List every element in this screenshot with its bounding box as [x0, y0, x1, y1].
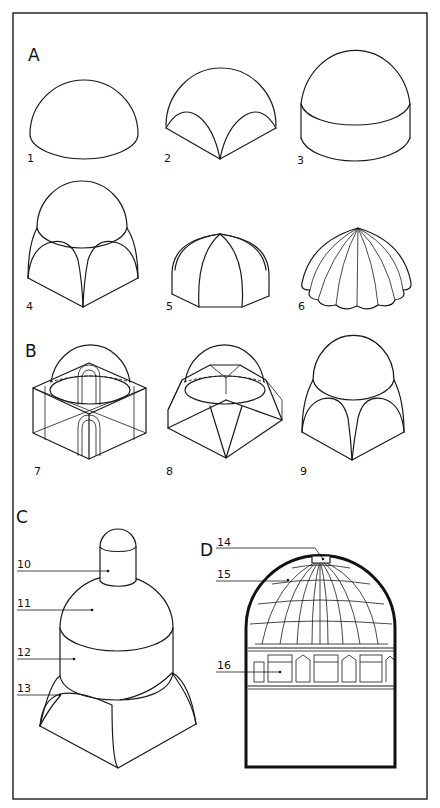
- section-label-d: D: [200, 540, 213, 560]
- figure-number-16: 16: [217, 659, 231, 672]
- figure-2-pendentive-dome: [166, 68, 276, 159]
- figure-number-11: 11: [17, 597, 31, 610]
- figure-5-ribbed-dome: [172, 234, 269, 307]
- figure-number-8: 8: [166, 465, 173, 478]
- figure-9-pendentive-construction: [302, 335, 404, 460]
- diagram-frame: [13, 13, 427, 799]
- figure-number-2: 2: [164, 152, 171, 165]
- figure-6-umbrella-dome: [302, 228, 411, 309]
- section-label-a: A: [28, 45, 40, 65]
- figure-number-9: 9: [300, 465, 307, 478]
- figure-8-faceted-transition: [168, 345, 282, 458]
- figure-number-10: 10: [17, 558, 31, 571]
- figure-number-6: 6: [298, 300, 305, 313]
- figure-number-13: 13: [17, 682, 31, 695]
- figure-number-7: 7: [34, 465, 41, 478]
- figure-4-dome-on-pendentives: [28, 181, 138, 307]
- figure-7-squinch-construction: [33, 345, 146, 459]
- figure-number-14: 14: [217, 536, 231, 549]
- dome-types-diagram: A B C D 1 2 3 4 5: [0, 0, 440, 808]
- figure-3-drum-dome: [301, 50, 410, 161]
- section-label-c: C: [16, 507, 28, 527]
- section-label-b: B: [25, 341, 37, 361]
- figure-d-dome-section: [216, 548, 395, 767]
- figure-number-3: 3: [297, 154, 304, 167]
- figure-number-15: 15: [217, 568, 231, 581]
- figure-number-1: 1: [27, 152, 34, 165]
- figure-1-hemispherical-dome: [30, 80, 138, 159]
- figure-c-domed-structure: [17, 529, 196, 768]
- figure-number-12: 12: [17, 646, 31, 659]
- figure-number-4: 4: [26, 300, 33, 313]
- figure-number-5: 5: [166, 300, 173, 313]
